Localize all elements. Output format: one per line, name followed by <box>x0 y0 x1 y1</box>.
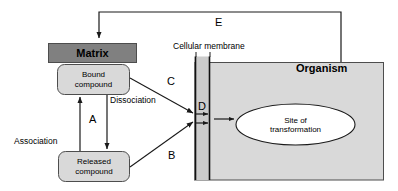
edge-b-arrow <box>130 122 193 167</box>
site-of-transformation-label: Site of transformation <box>236 105 355 145</box>
edge-label-a: A <box>89 113 96 126</box>
diagram-canvas: Matrix Bound compound Released compound … <box>0 0 398 191</box>
edge-label-c: C <box>167 75 175 88</box>
association-label: Association <box>14 137 57 147</box>
edge-label-e: E <box>215 16 222 29</box>
released-compound-label-line2: compound <box>75 167 112 176</box>
cellular-membrane-label: Cellular membrane <box>173 42 245 52</box>
site-of-transformation-label-line2: transformation <box>270 125 321 134</box>
released-compound-label: Released compound <box>58 151 130 182</box>
bound-compound-label-line1: Bound <box>82 70 105 79</box>
site-of-transformation-label-line1: Site of <box>284 116 307 125</box>
edge-label-d: D <box>198 100 206 113</box>
bound-compound-label: Bound compound <box>57 64 130 95</box>
edge-label-b: B <box>168 149 175 162</box>
matrix-label: Matrix <box>48 44 137 63</box>
released-compound-label-line1: Released <box>77 157 111 166</box>
dissociation-label: Dissociation <box>110 96 156 106</box>
organism-label: Organism <box>296 62 347 75</box>
bound-compound-label-line2: compound <box>75 80 112 89</box>
cellular-membrane-band <box>195 57 211 181</box>
